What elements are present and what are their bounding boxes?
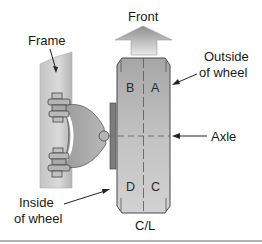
outside-pointer-arrow [172,74,197,85]
quadrant-b: B [126,81,134,95]
frame-label: Frame [28,33,66,48]
outside-of-wheel-label-2: of wheel [199,65,248,80]
quadrant-c: C [151,180,160,194]
tire [108,58,170,213]
axle-pointer-arrow [172,133,207,139]
front-label: Front [128,9,159,24]
inside-pointer-arrow [64,189,110,204]
wheel-alignment-diagram: B A D C Frame Front Outside of wheel Axl… [0,0,262,244]
outside-of-wheel-label-1: Outside [204,49,249,64]
inside-of-wheel-label-2: of wheel [14,211,63,226]
front-arrow-icon [115,26,172,55]
centerline-label: C/L [135,218,155,233]
quadrant-a: A [151,81,160,95]
spindle-pivot [99,131,109,141]
quadrant-d: D [126,180,135,194]
inside-of-wheel-label-1: Inside [19,195,54,210]
axle-label: Axle [211,129,236,144]
